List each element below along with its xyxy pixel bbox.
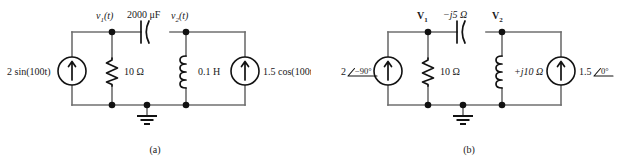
resistor-a xyxy=(107,58,118,86)
circuit-figure: v1(t) v2(t) 2000 μF 10 Ω 0.1 H 2 sin(100… xyxy=(0,0,623,164)
caption-a: (a) xyxy=(149,144,160,156)
node-dot-v2-top-b xyxy=(499,29,506,36)
inductor-b xyxy=(496,56,502,88)
node-dot-v2-bottom-b xyxy=(499,102,506,109)
inductor-label-b: +j10 Ω xyxy=(514,66,543,77)
node-dot-v2-bottom-a xyxy=(183,102,190,109)
source-left-label-a: 2 sin(100t) xyxy=(7,66,51,78)
node-dot-v1-top-a xyxy=(109,29,116,36)
ground-symbol-a xyxy=(137,116,157,124)
node-label-v1-a: v1(t) xyxy=(96,10,114,24)
source-right-magnitude-b: 1.5 xyxy=(579,66,592,77)
resistor-label-b: 10 Ω xyxy=(440,66,460,77)
capacitor-plate-curved-a xyxy=(146,21,149,43)
node-label-v2-b: V2 xyxy=(492,10,503,24)
inductor-label-a: 0.1 H xyxy=(198,66,220,77)
capacitor-label-a: 2000 μF xyxy=(127,9,161,20)
source-right-label-b: 1.5 0° xyxy=(579,66,613,77)
caption-b: (b) xyxy=(463,144,475,156)
node-label-v1-b: V1 xyxy=(417,10,428,24)
capacitor-plate-curved-b xyxy=(462,21,465,43)
source-left-label-b: 2 −90° xyxy=(341,66,377,77)
circuit-diagram-b: V1 V2 −j5 Ω 10 Ω +j10 Ω 2 −90° 1.5 0° (b… xyxy=(311,0,623,164)
resistor-label-a: 10 Ω xyxy=(124,66,144,77)
source-right-label-a: 1.5 cos(100t) xyxy=(263,66,311,78)
circuit-diagram-a: v1(t) v2(t) 2000 μF 10 Ω 0.1 H 2 sin(100… xyxy=(0,0,311,164)
node-dot-ground-b xyxy=(460,102,467,109)
node-dot-v2-top-a xyxy=(183,29,190,36)
source-left-magnitude-b: 2 xyxy=(341,66,346,77)
node-dot-v1-bottom-b xyxy=(425,102,432,109)
capacitor-label-b: −j5 Ω xyxy=(443,9,467,20)
circuit-b-svg: V1 V2 −j5 Ω 10 Ω +j10 Ω 2 −90° 1.5 0° (b… xyxy=(311,0,623,164)
circuit-a-svg: v1(t) v2(t) 2000 μF 10 Ω 0.1 H 2 sin(100… xyxy=(0,0,311,164)
node-dot-ground-a xyxy=(144,102,151,109)
source-left-angle-b: −90° xyxy=(355,66,372,76)
resistor-b xyxy=(423,58,434,86)
node-dot-v1-bottom-a xyxy=(109,102,116,109)
node-dot-v1-top-b xyxy=(425,29,432,36)
node-label-v2-a: v2(t) xyxy=(171,10,189,24)
source-right-angle-b: 0° xyxy=(601,66,609,76)
inductor-a xyxy=(180,56,186,88)
ground-symbol-b xyxy=(453,116,473,124)
